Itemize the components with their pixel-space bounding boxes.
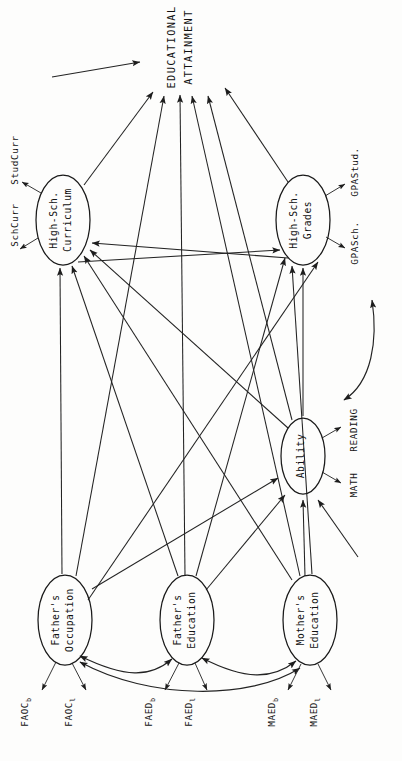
obs-label-gpastud: GPAStud. [349,147,360,197]
covariance-fatheroccupation-mothereducation [80,662,300,691]
sem-path-diagram: High-Sch. Curriculum High-Sch. Grades Ab… [0,0,402,761]
obs-base-gpastud: GPAStud. [349,147,360,197]
obs-label-schcurr: SchCurr [9,203,20,246]
loading-grades-to-gpastud [325,184,345,196]
path-mothereducation-to-attainment [192,96,300,576]
obs-base-gpasch: GPASch. [349,221,360,264]
obs-label-reading: READING [348,408,359,451]
path-grades-to-attainment [225,88,288,182]
label-hs-curriculum-line1: High-Sch. [48,191,59,248]
covariance-grades-ability [344,300,374,400]
path-fathereducation-to-ability [206,495,285,590]
path-fathereducation-to-grades [196,258,285,576]
obs-label-faoc-l: FAOCl [63,697,77,727]
obs-base-maed-l: MAED [308,702,319,727]
loading-fatheroccupation-to-faocb [42,662,56,690]
label-hs-curriculum-line2: Curriculum [62,188,73,252]
loading-mothereducation-to-maedb [288,664,301,690]
obs-label-faed-b: FAEDb [143,697,157,727]
covariance-fathereducation-mothereducation [202,658,296,675]
obs-label-math: MATH [348,473,359,498]
label-fathers-occupation-line1: Father's [50,594,61,645]
obs-base-schcurr: SchCurr [9,203,20,246]
loading-fatheroccupation-to-faocl [72,663,86,690]
disturbance-into-attainment [52,62,140,77]
obs-sub-faoc-l: l [69,697,77,702]
path-fatheroccupation-to-attainment [76,96,164,576]
path-curriculum-to-attainment [84,92,153,185]
obs-label-faed-l: FAEDl [183,697,197,727]
loading-curriculum-to-studcurr [22,182,41,193]
obs-base-math: MATH [348,473,359,498]
obs-base-faed-b: FAED [143,702,154,727]
label-fathers-education-line1: Father's [172,594,183,645]
obs-sub-faed-b: b [149,697,157,702]
obs-base-faoc-l: FAOC [63,702,74,727]
path-diagram-canvas: High-Sch. Curriculum High-Sch. Grades Ab… [0,0,402,761]
obs-base-reading: READING [348,408,359,451]
loading-fathereducation-to-faedl [195,663,207,690]
label-fathers-education-line2: Education [186,591,197,648]
label-ability: Ability [295,434,306,479]
label-fathers-occupation-line2: Occupation [64,588,75,652]
label-mothers-education-line1: Mother's [295,594,306,645]
obs-label-studcurr: StudCurr [9,135,20,185]
outcome-title: EDUCATIONAL ATTAINMENT [166,6,194,89]
obs-label-maed-l: MAEDl [308,697,322,727]
obs-base-studcurr: StudCurr [9,135,20,185]
path-mothereducation-to-ability [303,500,305,576]
disturbance-into-ability [318,500,358,557]
loading-ability-to-reading [322,427,341,438]
label-mothers-education-line2: Education [309,591,320,648]
path-fatheroccupation-to-curriculum [60,268,62,574]
obs-base-maed-b: MAED [266,702,277,727]
paths-to-curriculum [60,243,292,580]
obs-base-faed-l: FAED [183,702,194,727]
label-hs-grades-line1: High-Sch. [288,191,299,248]
obs-sub-faed-l: l [189,697,197,702]
label-hs-grades-line2: Grades [302,201,313,239]
loading-fathereducation-to-faedb [165,663,179,690]
educational-attainment-line1: EDUCATIONAL [166,6,177,89]
paths-to-attainment [76,88,300,576]
loading-ability-to-math [322,472,341,483]
loading-grades-to-gpasch [326,237,345,248]
obs-sub-maed-b: b [272,697,280,702]
obs-base-faoc-b: FAOC [19,702,30,727]
loading-mothereducation-to-maedl [318,664,331,690]
path-ability-to-attainment [208,96,292,420]
obs-label-gpasch: GPASch. [349,221,360,264]
covariance-arcs [80,300,374,691]
obs-sub-maed-l: l [314,697,322,702]
path-fathereducation-to-curriculum [72,266,178,576]
paths-to-ability [92,478,358,590]
covariance-fatheroccupation-fathereducation [80,656,172,673]
obs-label-faoc-b: FAOCb [19,697,33,727]
educational-attainment-line2: ATTAINMENT [183,9,194,84]
loading-curriculum-to-schcurr [20,238,38,249]
obs-label-maed-b: MAEDb [266,697,280,727]
obs-sub-faoc-b: b [25,697,33,702]
